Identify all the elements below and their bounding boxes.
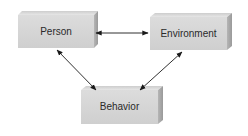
diagram-canvas — [0, 0, 248, 136]
behavior-label: Behavior — [81, 102, 158, 112]
reciprocal-determinism-diagram: Person Environment Behavior — [0, 0, 248, 136]
environment-label: Environment — [150, 29, 227, 39]
arrow-person-behavior — [57, 50, 96, 90]
person-label: Person — [18, 27, 94, 37]
arrow-environment-behavior — [140, 52, 182, 90]
